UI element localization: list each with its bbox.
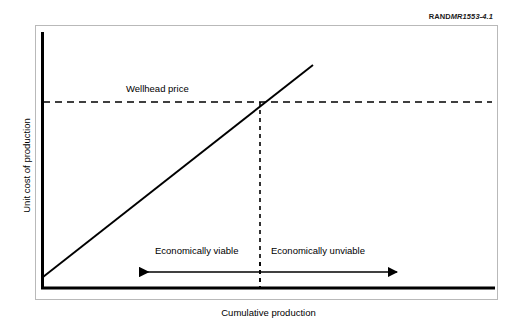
economically-unviable-label: Economically unviable <box>271 246 365 256</box>
plot-svg <box>0 0 515 328</box>
figure-container: RANDMR1553-4.1 Wellhead price Economical… <box>0 0 515 328</box>
x-axis-title: Cumulative production <box>42 307 495 318</box>
wellhead-price-label: Wellhead price <box>126 84 189 94</box>
y-axis-title: Unit cost of production <box>21 96 32 236</box>
economically-viable-label: Economically viable <box>155 246 238 256</box>
